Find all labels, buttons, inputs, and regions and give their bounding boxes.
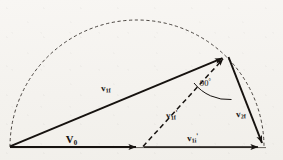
label-v1f-prime: v1f' — [165, 105, 178, 122]
label-v0-symbol: V — [66, 134, 74, 145]
label-v0-subscript: 0 — [74, 139, 78, 147]
vector-v2f — [229, 57, 263, 143]
dashed-semicircle — [10, 20, 264, 147]
label-v2f: v2f — [235, 104, 246, 121]
degree-symbol-icon: ° — [209, 78, 211, 84]
label-right-angle: 90° — [200, 78, 211, 87]
label-v1f-prime-mark: ' — [175, 108, 178, 117]
label-v0: V0 — [66, 130, 77, 147]
label-v1i-prime-mark: ' — [196, 132, 199, 141]
label-v2f-subscript: 2f — [241, 113, 246, 119]
vector-diagram-figure: v1f v1f' v2f V0 v1i' 90° — [0, 0, 283, 160]
label-v1f-subscript: 1f — [106, 87, 111, 93]
diagram-canvas — [0, 0, 283, 160]
vector-v1f-prime-dashed — [143, 59, 223, 147]
label-right-angle-value: 90 — [200, 78, 209, 88]
label-v1f: v1f — [101, 78, 111, 94]
label-v1i-prime: v1i' — [187, 128, 199, 144]
